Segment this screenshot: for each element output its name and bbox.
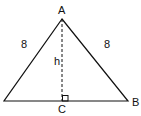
height-label: h xyxy=(54,55,60,67)
vertex-label-c: C xyxy=(58,103,66,115)
triangle-diagram: A B C 8 8 h xyxy=(0,0,141,116)
vertex-label-b: B xyxy=(132,96,139,108)
side-label-left: 8 xyxy=(21,38,27,50)
vertex-label-a: A xyxy=(58,4,66,16)
triangle xyxy=(4,19,128,101)
side-label-right: 8 xyxy=(104,38,110,50)
right-angle-marker xyxy=(63,96,69,102)
